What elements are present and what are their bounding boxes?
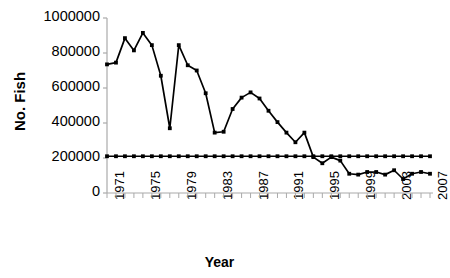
fish-abundance-line-chart: No. Fish Year 10000008000006000004000002…: [0, 0, 439, 278]
plot-area: [0, 0, 439, 278]
